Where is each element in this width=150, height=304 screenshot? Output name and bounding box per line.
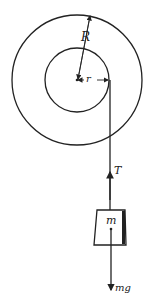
- label-m: m: [106, 215, 116, 226]
- label-r: r: [86, 74, 91, 84]
- block-shadow: [122, 211, 125, 244]
- pulley-diagram: [0, 0, 150, 304]
- label-T: T: [114, 165, 121, 176]
- center-point: [76, 79, 79, 82]
- label-mg: mg: [115, 283, 131, 293]
- label-R: R: [81, 31, 90, 43]
